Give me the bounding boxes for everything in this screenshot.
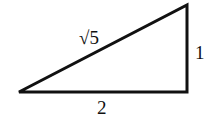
right-triangle-diagram: √5 1 2 <box>0 0 218 118</box>
vertical-leg-label: 1 <box>195 42 205 63</box>
triangle <box>19 5 187 92</box>
hypotenuse-label: √5 <box>79 27 99 48</box>
horizontal-leg-label: 2 <box>97 97 107 118</box>
